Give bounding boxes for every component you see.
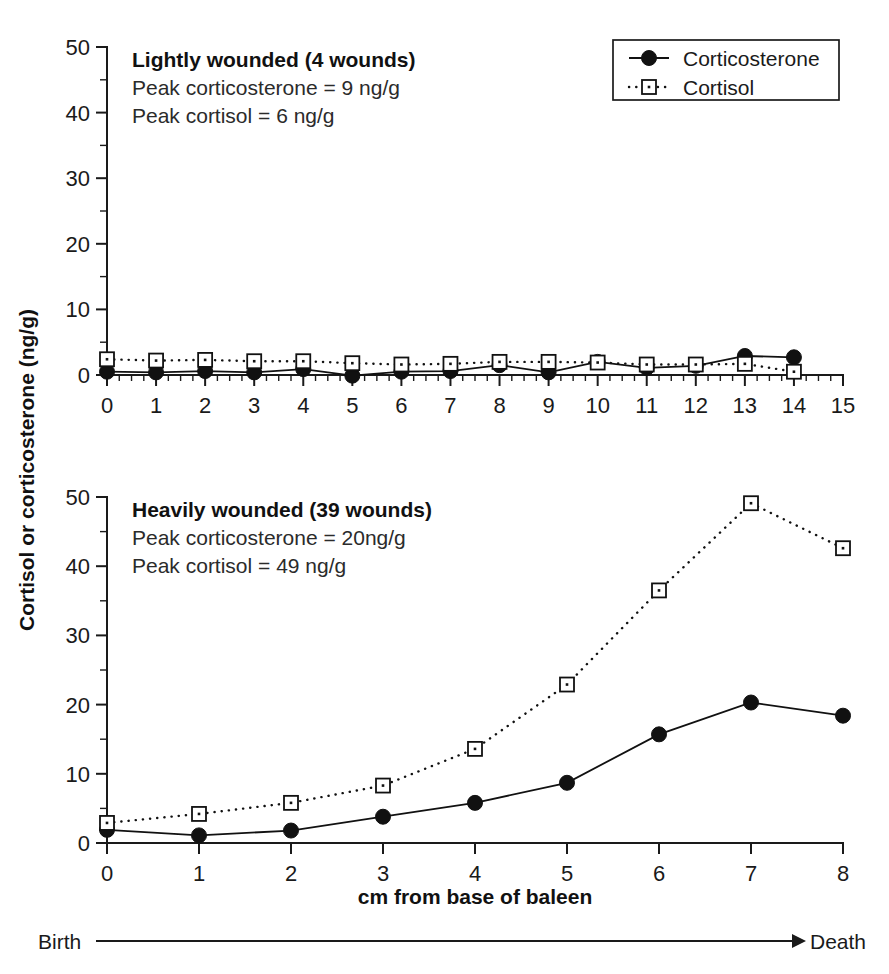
birth-death-timeline: BirthDeath xyxy=(38,930,866,953)
data-point-corticosterone xyxy=(744,695,759,710)
figure-container: 010203040500123456789101112131415Lightly… xyxy=(0,0,889,974)
data-point-corticosterone xyxy=(284,823,299,838)
series-line-corticosterone xyxy=(107,703,843,836)
x-tick-label: 5 xyxy=(346,393,358,418)
data-point-cortisol-center xyxy=(449,363,452,366)
x-tick-label: 0 xyxy=(101,393,113,418)
data-point-cortisol-center xyxy=(695,363,698,366)
data-point-cortisol-center xyxy=(793,370,796,373)
data-point-cortisol-center xyxy=(400,363,403,366)
panel-annotation-heavily-wounded-1: Peak cortisol = 49 ng/g xyxy=(132,554,346,577)
panel-annotation-heavily-wounded-0: Peak corticosterone = 20ng/g xyxy=(132,526,406,549)
x-tick-label: 6 xyxy=(653,861,665,886)
x-tick-label: 15 xyxy=(831,393,855,418)
y-tick-label: 10 xyxy=(66,297,90,322)
data-point-cortisol-center xyxy=(474,748,477,751)
x-tick-label: 7 xyxy=(444,393,456,418)
x-tick-label: 0 xyxy=(101,861,113,886)
data-point-cortisol-center xyxy=(198,813,201,816)
y-tick-label: 0 xyxy=(78,831,90,856)
x-tick-label: 4 xyxy=(469,861,481,886)
baleen-hormone-figure: 010203040500123456789101112131415Lightly… xyxy=(0,0,889,974)
data-point-cortisol-center xyxy=(596,361,599,364)
x-tick-label: 8 xyxy=(493,393,505,418)
data-point-corticosterone xyxy=(836,708,851,723)
x-tick-label: 2 xyxy=(199,393,211,418)
data-point-cortisol-center xyxy=(204,359,207,362)
x-tick-label: 13 xyxy=(733,393,757,418)
x-tick-label: 10 xyxy=(585,393,609,418)
data-point-cortisol-center xyxy=(290,802,293,805)
legend: CorticosteroneCortisol xyxy=(613,40,839,100)
data-point-cortisol-center xyxy=(155,359,158,362)
legend-marker-filled-circle xyxy=(642,51,657,66)
data-point-cortisol-center xyxy=(842,547,845,550)
y-tick-label: 20 xyxy=(66,232,90,257)
x-tick-label: 6 xyxy=(395,393,407,418)
data-point-cortisol-center xyxy=(106,822,109,825)
panel-annotation-lightly-wounded-0: Peak corticosterone = 9 ng/g xyxy=(132,76,400,99)
x-tick-label: 3 xyxy=(377,861,389,886)
y-tick-label: 0 xyxy=(78,363,90,388)
data-point-cortisol-center xyxy=(302,360,305,363)
series-line-cortisol xyxy=(107,503,843,823)
data-point-cortisol-center xyxy=(744,363,747,366)
y-tick-label: 10 xyxy=(66,762,90,787)
data-point-cortisol-center xyxy=(351,362,354,365)
x-tick-label: 1 xyxy=(193,861,205,886)
timeline-start-label: Birth xyxy=(38,930,81,953)
series-markers-corticosterone xyxy=(100,695,851,843)
panel-title-heavily-wounded: Heavily wounded (39 wounds) xyxy=(132,498,432,521)
data-point-cortisol-center xyxy=(566,683,569,686)
y-tick-label: 50 xyxy=(66,35,90,60)
x-tick-label: 3 xyxy=(248,393,260,418)
data-point-corticosterone xyxy=(192,828,207,843)
y-tick-label: 40 xyxy=(66,554,90,579)
x-tick-label: 14 xyxy=(782,393,806,418)
legend-marker-square-dot xyxy=(648,86,651,89)
data-point-cortisol-center xyxy=(253,360,256,363)
x-tick-label: 8 xyxy=(837,861,849,886)
x-tick-label: 7 xyxy=(745,861,757,886)
data-point-corticosterone xyxy=(560,775,575,790)
data-point-corticosterone xyxy=(468,795,483,810)
y-tick-label: 50 xyxy=(66,485,90,510)
timeline-end-label: Death xyxy=(810,930,866,953)
y-tick-label: 30 xyxy=(66,166,90,191)
x-tick-label: 5 xyxy=(561,861,573,886)
x-tick-label: 1 xyxy=(150,393,162,418)
legend-label: Cortisol xyxy=(683,76,754,99)
y-tick-label: 20 xyxy=(66,693,90,718)
legend-label: Corticosterone xyxy=(683,47,820,70)
data-point-cortisol-center xyxy=(645,363,648,366)
data-point-cortisol-center xyxy=(498,361,501,364)
x-tick-label: 4 xyxy=(297,393,309,418)
x-axis-title: cm from base of baleen xyxy=(358,885,593,908)
panel-annotation-lightly-wounded-1: Peak cortisol = 6 ng/g xyxy=(132,104,335,127)
panel-title-lightly-wounded: Lightly wounded (4 wounds) xyxy=(132,48,415,71)
y-tick-label: 30 xyxy=(66,623,90,648)
chart-panel-heavily-wounded: 01020304050012345678Heavily wounded (39 … xyxy=(66,485,851,886)
x-tick-label: 12 xyxy=(684,393,708,418)
data-point-corticosterone xyxy=(786,350,801,365)
x-tick-label: 2 xyxy=(285,861,297,886)
data-point-corticosterone xyxy=(652,727,667,742)
x-tick-label: 11 xyxy=(635,393,658,418)
data-point-cortisol-center xyxy=(382,784,385,787)
y-tick-label: 40 xyxy=(66,101,90,126)
data-point-cortisol-center xyxy=(750,502,753,505)
right-arrow-icon xyxy=(792,934,806,948)
data-point-corticosterone xyxy=(376,809,391,824)
y-axis-title: Cortisol or corticosterone (ng/g) xyxy=(15,309,38,631)
x-tick-label: 9 xyxy=(542,393,554,418)
data-point-cortisol-center xyxy=(106,358,109,361)
data-point-cortisol-center xyxy=(547,361,550,364)
data-point-cortisol-center xyxy=(658,589,661,592)
